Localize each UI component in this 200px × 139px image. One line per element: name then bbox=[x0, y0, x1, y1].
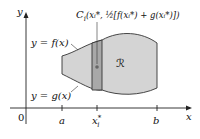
x-axis-arrow bbox=[186, 106, 192, 111]
region-r bbox=[62, 34, 157, 95]
x-axis-label: x bbox=[186, 111, 192, 122]
centroid-dot bbox=[95, 65, 99, 69]
centroid-label: Ci(xᵢ*, ½[f(xᵢ*) + g(xᵢ*)]) bbox=[76, 9, 179, 23]
tick-label-b: b bbox=[153, 115, 159, 126]
tick-label-a: a bbox=[59, 115, 65, 126]
lower-curve-label: y = g(x) bbox=[30, 90, 71, 101]
centroid-diagram: y x 0 a x*i b y = f(x) y = g(x) ℛ Ci(xᵢ*… bbox=[0, 0, 200, 139]
upper-curve-label: y = f(x) bbox=[30, 37, 69, 48]
region-label: ℛ bbox=[116, 57, 125, 70]
f-pointer bbox=[71, 44, 78, 50]
y-axis-label: y bbox=[16, 6, 23, 17]
g-pointer bbox=[71, 86, 78, 92]
tick-label-xi: x*i bbox=[92, 114, 102, 129]
origin-label: 0 bbox=[18, 112, 24, 123]
y-axis-arrow bbox=[24, 12, 29, 18]
